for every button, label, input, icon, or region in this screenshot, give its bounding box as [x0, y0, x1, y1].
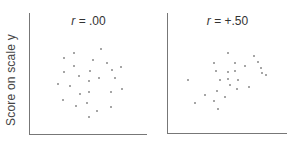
- data-point: [69, 85, 71, 87]
- data-point: [216, 90, 218, 92]
- data-point: [236, 88, 238, 90]
- data-point: [257, 61, 259, 63]
- data-point: [237, 79, 239, 81]
- data-point: [215, 70, 217, 72]
- data-point: [92, 59, 94, 61]
- data-point: [229, 84, 231, 86]
- data-point: [260, 67, 262, 69]
- data-point: [213, 100, 215, 102]
- data-point: [194, 102, 196, 104]
- scatter-panel-r-fifty: r = +.50: [167, 13, 287, 134]
- data-point: [234, 62, 236, 64]
- data-point: [114, 77, 116, 79]
- data-point: [204, 94, 206, 96]
- data-point: [227, 71, 229, 73]
- data-point: [248, 86, 250, 88]
- data-point: [227, 78, 229, 80]
- data-point: [265, 74, 267, 76]
- data-point: [100, 48, 102, 50]
- data-point: [63, 71, 65, 73]
- panel-title-r-zero: r = .00: [30, 14, 147, 28]
- scatter-panel-r-zero: r = .00: [29, 13, 147, 135]
- data-point: [88, 91, 90, 93]
- panel-title-r-fifty: r = +.50: [168, 14, 287, 28]
- data-point: [73, 65, 75, 67]
- data-point: [111, 69, 113, 71]
- y-axis-label: Score on scale y: [4, 34, 18, 126]
- data-point: [121, 88, 123, 90]
- data-point: [98, 77, 100, 79]
- data-point: [88, 80, 90, 82]
- data-point: [227, 52, 229, 54]
- data-point: [217, 108, 219, 110]
- data-point: [57, 83, 59, 85]
- data-point: [75, 105, 77, 107]
- data-point: [106, 62, 108, 64]
- data-point: [219, 79, 221, 81]
- data-point: [78, 75, 80, 77]
- data-point: [234, 70, 236, 72]
- data-point: [120, 66, 122, 68]
- data-point: [261, 72, 263, 74]
- data-point: [63, 57, 65, 59]
- data-point: [79, 93, 81, 95]
- data-point: [89, 70, 91, 72]
- data-point: [213, 62, 215, 64]
- data-point: [110, 106, 112, 108]
- data-point: [96, 110, 98, 112]
- data-point: [253, 55, 255, 57]
- data-point: [110, 91, 112, 93]
- data-point: [73, 52, 75, 54]
- data-point: [88, 116, 90, 118]
- data-point: [224, 96, 226, 98]
- data-point: [187, 79, 189, 81]
- data-point: [244, 65, 246, 67]
- data-point: [62, 99, 64, 101]
- data-point: [86, 102, 88, 104]
